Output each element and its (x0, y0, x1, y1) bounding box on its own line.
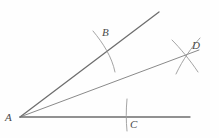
rays-group (20, 12, 199, 117)
geometry-canvas (0, 0, 219, 138)
point-label-b: B (102, 27, 109, 38)
point-label-c: C (130, 119, 137, 130)
arc-mark-c-icon (126, 99, 127, 131)
ray-upper (20, 12, 159, 117)
construction-arcs-group (93, 31, 200, 131)
ray-bisector (20, 50, 199, 117)
point-label-a: A (5, 112, 12, 123)
point-label-d: D (192, 40, 200, 51)
geometry-figure: A B C D (0, 0, 219, 138)
